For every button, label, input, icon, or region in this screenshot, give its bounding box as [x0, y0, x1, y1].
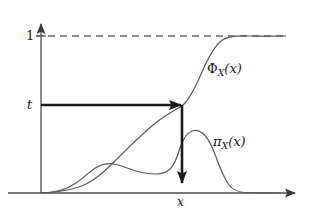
y-axis-label-t: t [27, 98, 32, 111]
y-axis-label-one: 1 [26, 29, 34, 42]
plot-svg [0, 0, 313, 218]
x-axis-label-x: x [177, 196, 184, 208]
pdf-symbol: π [213, 134, 222, 149]
cdf-curve [41, 36, 286, 193]
pdf-argument: (x) [228, 134, 245, 149]
cdf-argument: (x) [224, 61, 241, 76]
cdf-symbol: Φ [207, 61, 218, 76]
cdf-curve-label: ΦX(x) [207, 62, 242, 77]
pdf-curve-label: πX(x) [213, 135, 246, 150]
figure-canvas: 1 t x ΦX(x) πX(x) [0, 0, 313, 218]
